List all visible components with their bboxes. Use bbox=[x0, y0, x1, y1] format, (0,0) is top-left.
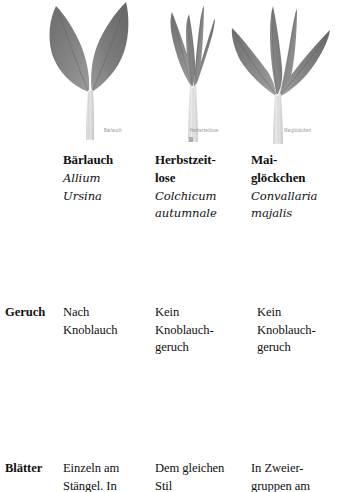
cell-geruch-herbstzeitlose: Kein Knoblauch- geruch bbox=[155, 304, 247, 357]
latin-name-line2: Ursina bbox=[63, 188, 151, 206]
cell-line: Kein bbox=[257, 304, 341, 322]
cell-line: Knoblauch- bbox=[155, 322, 247, 340]
latin-name-line1: Convallaria bbox=[251, 188, 341, 206]
cell-line: Knoblauch bbox=[63, 322, 151, 340]
cell-blaetter1-maigloeckchen: In Zweier- gruppen am gleichen Stil. bbox=[251, 460, 341, 492]
plant-caption-maigloeckchen: Maiglöckchen bbox=[284, 128, 311, 134]
cell-line: Kein bbox=[155, 304, 247, 322]
cell-line: geruch bbox=[155, 339, 247, 357]
plant-caption-herbstzeitlose: Herbstzeitlose bbox=[190, 128, 218, 134]
cell-blaetter1-baerlauch: Einzeln am Stängel. In Gruppen dicht bei… bbox=[63, 460, 151, 492]
cell-line: Knoblauch- bbox=[257, 322, 341, 340]
cell-line: Einzeln am bbox=[63, 460, 151, 478]
common-name-line1: Herbstzeit- bbox=[155, 152, 247, 170]
cell-line: In Zweier- bbox=[251, 460, 341, 478]
latin-name-line1: Allium bbox=[63, 170, 151, 188]
cell-line: Stil bbox=[155, 478, 251, 492]
plant-photo-herbstzeitlose: Herbstzeitlose bbox=[158, 0, 228, 152]
cell-line: Stängel. In bbox=[63, 478, 151, 492]
common-name-line1: Mai- bbox=[251, 152, 341, 170]
table-row-geruch: Geruch Nach Knoblauch Kein Knoblauch- ge… bbox=[0, 304, 341, 382]
table-header-row: Bärlauch Allium Ursina Herbstzeit- lose … bbox=[0, 152, 341, 228]
plant-comparison-table: Bärlauch Allium Ursina Herbstzeit- lose … bbox=[0, 152, 341, 476]
column-header-baerlauch: Bärlauch Allium Ursina bbox=[63, 152, 151, 205]
column-header-herbstzeitlose: Herbstzeit- lose Colchicum autumnale bbox=[155, 152, 247, 223]
latin-name-line2: autumnale bbox=[155, 205, 247, 223]
cell-blaetter1-herbstzeitlose: Dem gleichen Stil entspringend bbox=[155, 460, 251, 492]
plant-photo-strip: Bärlauch bbox=[0, 0, 341, 152]
cell-line: Dem gleichen bbox=[155, 460, 251, 478]
row-label-blaetter-1: Blätter bbox=[5, 460, 63, 478]
row-label-geruch: Geruch bbox=[5, 304, 63, 322]
plant-caption-baerlauch: Bärlauch bbox=[104, 128, 122, 134]
common-name-line2: glöckchen bbox=[251, 170, 341, 188]
maigloeckchen-illustration bbox=[228, 0, 338, 152]
column-header-maigloeckchen: Mai- glöckchen Convallaria majalis bbox=[251, 152, 341, 223]
cell-geruch-baerlauch: Nach Knoblauch bbox=[63, 304, 151, 339]
cell-geruch-maigloeckchen: Kein Knoblauch- geruch bbox=[251, 304, 341, 357]
plant-photo-maigloeckchen: Maiglöckchen bbox=[228, 0, 338, 152]
cell-line: geruch bbox=[257, 339, 341, 357]
common-name-line2: lose bbox=[155, 170, 247, 188]
cell-line: Nach bbox=[63, 304, 151, 322]
table-row-blaetter-1: Blätter Einzeln am Stängel. In Gruppen d… bbox=[0, 460, 341, 492]
latin-name-line2: majalis bbox=[251, 205, 341, 223]
common-name-line1: Bärlauch bbox=[63, 152, 151, 170]
baerlauch-illustration bbox=[42, 0, 142, 152]
latin-name-line1: Colchicum bbox=[155, 188, 247, 206]
plant-photo-baerlauch: Bärlauch bbox=[42, 0, 142, 152]
cell-line: gruppen am bbox=[251, 478, 341, 492]
